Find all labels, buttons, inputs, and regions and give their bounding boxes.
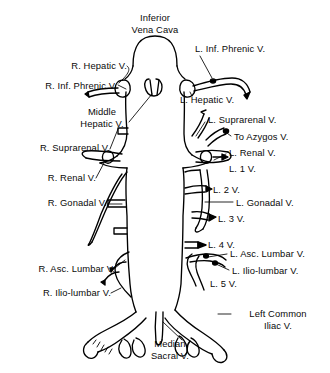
label-left-asc-lumbar-vein: L. Asc. Lumbar V. bbox=[230, 248, 305, 260]
right-internal-iliac-stub-1 bbox=[119, 339, 131, 358]
left-common-iliac-end bbox=[212, 350, 227, 363]
leader-middle-hepatic bbox=[129, 94, 152, 122]
label-left-ilio-lumbar-vein: L. Ilio-lumbar V. bbox=[232, 265, 299, 277]
right-common-iliac-upper bbox=[88, 312, 136, 342]
leader-right-suprarenal bbox=[110, 129, 118, 149]
l3-branch-upper bbox=[192, 212, 209, 214]
middle-hepatic-line-2: Hepatic V. bbox=[80, 118, 123, 129]
to-azygos-upper bbox=[206, 128, 224, 140]
label-left-gonadal-vein: L. Gonadal V. bbox=[236, 197, 294, 209]
label-left-renal-vein: L. Renal V. bbox=[229, 147, 276, 159]
left-inf-phrenic-valve bbox=[210, 79, 215, 83]
label-left-suprarenal-vein: L. Suprarenal V. bbox=[208, 114, 277, 126]
title-line-2: Vena Cava bbox=[132, 24, 179, 35]
left-suprarenal-tip bbox=[201, 110, 206, 114]
title-line-1: Inferior bbox=[140, 12, 170, 23]
label-middle-hepatic-vein: Middle Hepatic V. bbox=[72, 106, 132, 129]
label-to-azygos-vein: To Azygos V. bbox=[234, 131, 289, 143]
right-common-iliac-end bbox=[84, 342, 98, 358]
label-left-inf-phrenic-vein: L. Inf. Phrenic V. bbox=[195, 43, 265, 55]
ivc-left-wall-lower bbox=[126, 168, 136, 312]
label-right-renal-vein: R. Renal V. bbox=[0, 172, 96, 184]
l4-stub bbox=[185, 242, 198, 248]
right-lumbar-stub-4 bbox=[114, 228, 127, 234]
left-asc-lumbar-node bbox=[204, 254, 209, 258]
ivc-upper-right-shoulder bbox=[177, 66, 185, 79]
right-ilio-lumbar-tip bbox=[101, 280, 105, 285]
label-lumbar-2-vein: L. 2 V. bbox=[213, 184, 240, 196]
l2-arrow-head bbox=[206, 186, 212, 192]
left-common-iliac-line-1: Left Common bbox=[249, 308, 306, 319]
label-left-common-iliac-vein: Left Common Iliac V. bbox=[232, 308, 324, 331]
l4-arrow-head bbox=[198, 242, 206, 248]
label-median-sacral-vein: Median Sacral V. bbox=[138, 338, 202, 361]
middle-hepatic-line-1: Middle bbox=[88, 106, 116, 117]
label-right-suprarenal-vein: R. Suprarenal V. bbox=[0, 142, 110, 154]
middle-hepatic-inner-right bbox=[157, 80, 159, 95]
left-common-iliac-line-2: Iliac V. bbox=[264, 320, 292, 331]
median-sacral-right bbox=[162, 312, 163, 340]
label-right-gonadal-vein: R. Gonadal V. bbox=[0, 197, 107, 209]
label-lumbar-5-vein: L. 5 V. bbox=[210, 278, 237, 290]
label-right-inf-phrenic-vein: R. Inf. Phrenic V. bbox=[0, 80, 117, 92]
left-renal-upper bbox=[196, 151, 228, 153]
median-sacral-line-1: Median bbox=[154, 338, 185, 349]
right-inf-phrenic-lower bbox=[89, 93, 119, 97]
label-left-hepatic-vein: L. Hepatic V. bbox=[180, 94, 234, 106]
page-title: Inferior Vena Cava bbox=[110, 12, 200, 35]
middle-hepatic-inner-left bbox=[150, 80, 152, 95]
label-lumbar-3-vein: L. 3 V. bbox=[218, 213, 245, 225]
ivc-right-wall-lower bbox=[175, 168, 184, 310]
leader-left-inf-phrenic bbox=[200, 56, 212, 78]
anatomical-diagram-figure: Inferior Vena Cava R. Hepatic V. R. Inf.… bbox=[0, 0, 330, 373]
label-lumbar-1-vein: L. 1 V. bbox=[229, 163, 256, 175]
left-gonadal-tip bbox=[195, 228, 203, 232]
label-right-ilio-lumbar-vein: R. Ilio-lumbar V. bbox=[0, 287, 111, 299]
right-inf-phrenic-tip bbox=[85, 92, 89, 97]
label-right-hepatic-vein: R. Hepatic V. bbox=[0, 60, 127, 72]
label-right-asc-lumbar-vein: R. Asc. Lumbar V. bbox=[0, 263, 115, 275]
leader-right-ilio-lumbar bbox=[111, 288, 121, 293]
left-gonadal-junction bbox=[185, 170, 200, 172]
l2-branch-upper bbox=[185, 186, 206, 188]
median-sacral-line-2: Sacral V. bbox=[151, 350, 189, 361]
leader-right-inf-phrenic bbox=[118, 85, 126, 89]
l3-arrow-head bbox=[209, 214, 216, 221]
leader-right-renal bbox=[96, 163, 104, 178]
lumbar-5-trunk-left bbox=[187, 254, 196, 286]
ivc-dome bbox=[133, 36, 177, 66]
